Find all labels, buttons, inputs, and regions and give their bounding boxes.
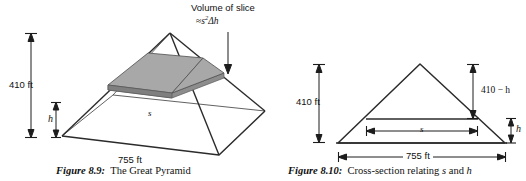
figure-right-caption-var-h: h (467, 165, 472, 176)
pyramid-base-back-edges (62, 95, 265, 136)
slice-pointer-arrow (224, 32, 231, 74)
slice-annotation-formula: ≈s2Δh (196, 15, 218, 27)
figure-right-caption-text: Cross-section relating (348, 165, 440, 176)
figure-page: Volume of slice ≈s2Δh 410 ft h s 755 ft … (0, 0, 526, 181)
cross-slice-width-label: s (420, 125, 424, 134)
dim-cross-upper-height (467, 64, 479, 119)
figures-vector-canvas (0, 0, 526, 181)
cross-base-label: 755 ft (403, 151, 433, 161)
dim-cross-slice-h (506, 118, 516, 143)
pyramid-slice-thickness-label: h (48, 114, 53, 125)
figure-right-caption-number: Figure 8.10: (288, 165, 342, 176)
figure-right-caption: Figure 8.10: Cross-section relating s an… (288, 165, 472, 176)
pyramid-base-front-edges (62, 111, 265, 155)
formula-delta-h: Δh (208, 16, 218, 26)
pyramid-base-label: 755 ft (118, 155, 142, 165)
cross-slice-thickness-label: h (516, 124, 521, 135)
cross-upper-height-label: 410 − h (481, 86, 510, 96)
pyramid-height-label: 410 ft (9, 80, 33, 90)
figure-left-caption-number: Figure 8.9: (56, 165, 105, 176)
pyramid-3d-group (62, 33, 265, 155)
cross-height-label: 410 ft (296, 97, 320, 107)
figure-left-caption: Figure 8.9: The Great Pyramid (56, 165, 191, 176)
pyramid-side-label: s (148, 109, 152, 118)
slice-annotation-line1: Volume of slice (191, 3, 255, 13)
figure-left-caption-text: The Great Pyramid (110, 165, 190, 176)
figure-right-caption-and: and (449, 165, 464, 176)
